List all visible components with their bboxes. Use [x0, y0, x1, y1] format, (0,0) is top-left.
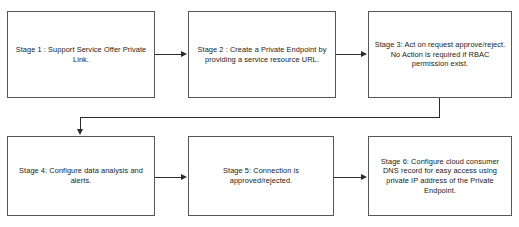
connector-stage-1-to-stage-2 [155, 54, 182, 55]
flow-node-stage-1-label: Stage 1 : Support Service Offer Private … [13, 45, 149, 64]
arrowhead-right-icon [361, 51, 367, 57]
arrowhead-right-icon [361, 174, 367, 180]
arrowhead-right-icon [181, 51, 187, 57]
flow-node-stage-5[interactable]: Stage 5: Connection is approved/rejected… [188, 136, 334, 216]
connector-stage-5-to-stage-6 [334, 177, 362, 178]
flow-node-stage-3-label: Stage 3: Act on request approve/reject. … [374, 40, 506, 69]
flow-node-stage-6[interactable]: Stage 6: Configure cloud consumer DNS re… [368, 136, 512, 216]
connector-stage-3-to-stage-4-segment-down [439, 98, 440, 118]
connector-stage-2-to-stage-3 [336, 54, 362, 55]
flow-node-stage-2-label: Stage 2 : Create a Private Endpoint by p… [194, 45, 330, 64]
flow-node-stage-3[interactable]: Stage 3: Act on request approve/reject. … [368, 11, 512, 98]
flow-node-stage-6-label: Stage 6: Configure cloud consumer DNS re… [374, 157, 506, 195]
flow-node-stage-5-label: Stage 5: Connection is approved/rejected… [194, 166, 328, 185]
flow-node-stage-4[interactable]: Stage 4: Configure data analysis and ale… [7, 136, 155, 216]
connector-stage-3-to-stage-4-segment-left [80, 117, 440, 118]
arrowhead-right-icon [181, 174, 187, 180]
connector-stage-4-to-stage-5 [155, 177, 182, 178]
flow-node-stage-1[interactable]: Stage 1 : Support Service Offer Private … [7, 11, 155, 98]
arrowhead-down-icon [77, 129, 83, 135]
flowchart-canvas: Stage 1 : Support Service Offer Private … [0, 0, 519, 227]
flow-node-stage-4-label: Stage 4: Configure data analysis and ale… [13, 166, 149, 185]
flow-node-stage-2[interactable]: Stage 2 : Create a Private Endpoint by p… [188, 11, 336, 98]
